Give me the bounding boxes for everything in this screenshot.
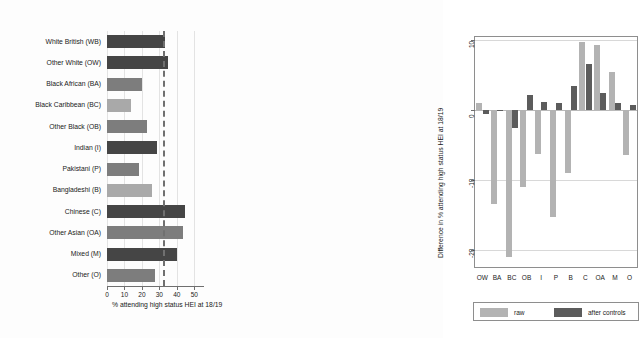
legend-swatch-after-controls <box>554 308 582 317</box>
right-chart-panel: 100-10-20OWBABCOBIPBCOAMO Difference in … <box>215 0 443 338</box>
left-x-tick <box>177 287 178 290</box>
legend-label-after-controls: after controls <box>588 308 626 317</box>
left-category-label: Chinese (C) <box>0 208 101 216</box>
left-category-label: Other Asian (OA) <box>0 229 101 237</box>
right-bar-raw <box>565 110 571 173</box>
right-bar-after-controls <box>541 102 547 110</box>
left-gridline <box>177 31 178 286</box>
left-x-axis-line <box>107 286 204 287</box>
right-bar-raw <box>623 110 629 155</box>
left-x-tick-label: 40 <box>168 291 186 299</box>
right-bar-after-controls <box>600 93 606 110</box>
left-category-label: Mixed (M) <box>0 250 101 258</box>
left-category-label: Black African (BA) <box>0 80 101 88</box>
left-bar <box>107 120 147 133</box>
left-category-label: Indian (I) <box>0 144 101 152</box>
right-bar-after-controls <box>556 103 562 110</box>
right-bar-raw <box>579 42 585 110</box>
left-bar <box>107 35 165 48</box>
right-plot-area <box>474 36 638 268</box>
right-bar-raw <box>594 45 600 110</box>
right-gridline <box>475 40 637 41</box>
left-x-tick <box>142 287 143 290</box>
left-x-axis-title: % attending high status HEI at 18/19 <box>112 300 222 309</box>
right-bar-after-controls <box>512 110 518 128</box>
left-bar <box>107 205 185 218</box>
left-x-tick <box>194 287 195 290</box>
left-x-tick-label: 20 <box>133 291 151 299</box>
right-bar-after-controls <box>615 103 621 110</box>
right-y-axis-title: Difference in % attending high status HE… <box>437 108 444 258</box>
left-x-tick-label: 10 <box>115 291 133 299</box>
left-x-tick-label: 0 <box>98 291 116 299</box>
left-category-label: Bangladeshi (B) <box>0 186 101 194</box>
right-gridline <box>475 250 637 251</box>
right-y-tick <box>471 110 475 111</box>
right-bar-after-controls <box>571 86 577 110</box>
right-bar-after-controls <box>497 110 503 111</box>
left-category-label: Other White (OW) <box>0 59 101 67</box>
left-bar <box>107 269 155 282</box>
right-bar-raw <box>609 72 615 110</box>
right-y-tick-label: 10 <box>468 41 475 48</box>
right-bar-raw <box>506 110 512 256</box>
right-y-tick-label: -20 <box>468 248 475 257</box>
left-x-tick-label: 50 <box>185 291 203 299</box>
right-bar-after-controls <box>483 110 489 114</box>
right-bar-raw <box>491 110 497 204</box>
left-bar <box>107 226 183 239</box>
left-bar <box>107 56 168 69</box>
legend-swatch-raw <box>480 308 508 317</box>
right-bar-raw <box>520 110 526 187</box>
left-chart-panel: White British (WB)Other White (OW)Black … <box>0 0 215 338</box>
right-bar-after-controls <box>527 95 533 110</box>
left-category-label: Pakistani (P) <box>0 165 101 173</box>
right-category-label: O <box>621 274 639 282</box>
left-bar <box>107 184 152 197</box>
left-category-label: White British (WB) <box>0 38 101 46</box>
right-bar-raw <box>476 103 482 110</box>
chart-legend: raw after controls <box>473 302 639 321</box>
reference-line <box>163 31 165 286</box>
right-bar-after-controls <box>630 105 636 110</box>
left-x-tick <box>124 287 125 290</box>
left-x-tick-label: 30 <box>150 291 168 299</box>
left-x-tick <box>107 287 108 290</box>
right-bar-raw <box>550 110 556 217</box>
right-bar-raw <box>535 110 541 154</box>
right-bar-after-controls <box>586 64 592 110</box>
left-x-tick <box>159 287 160 290</box>
legend-label-raw: raw <box>514 308 524 317</box>
right-gridline <box>475 180 637 181</box>
left-category-label: Other Black (OB) <box>0 123 101 131</box>
left-category-label: Black Caribbean (BC) <box>0 101 101 109</box>
left-bar <box>107 99 131 112</box>
left-bar <box>107 163 139 176</box>
left-category-label: Other (O) <box>0 271 101 279</box>
right-y-tick-label: -10 <box>468 178 475 187</box>
left-bar <box>107 78 142 91</box>
left-gridline <box>194 31 195 286</box>
left-bar <box>107 248 177 261</box>
left-bar <box>107 141 157 154</box>
right-y-tick-label: 0 <box>468 115 475 119</box>
